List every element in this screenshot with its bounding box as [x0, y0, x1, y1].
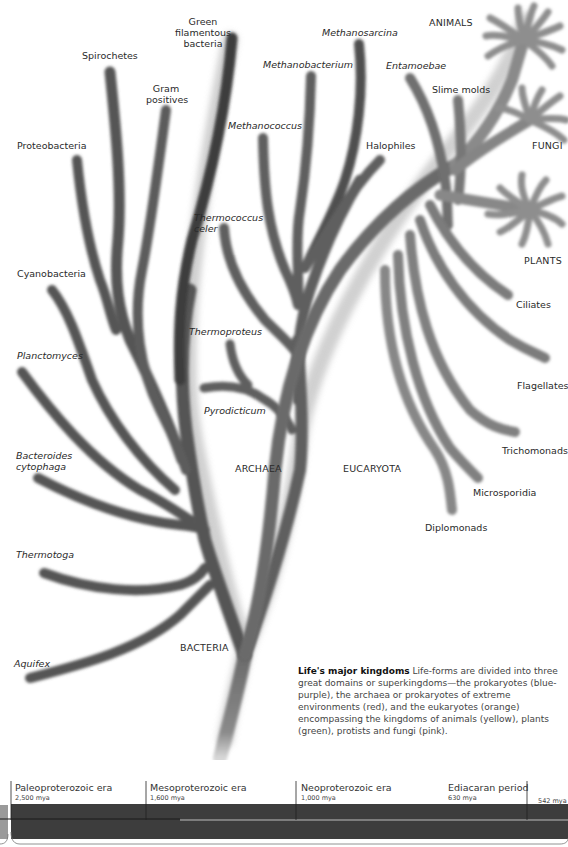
label-pyrodicticum: Pyrodicticum — [204, 405, 266, 416]
mya-1000: 1,000 mya — [301, 794, 336, 802]
label-methanococcus: Methanococcus — [228, 120, 302, 131]
label-halophiles: Halophiles — [366, 140, 416, 151]
label-thermococcus-celer: Thermococcus celer — [194, 212, 263, 234]
caption-body: Life-forms are divided into three great … — [298, 666, 558, 736]
label-diplomonads: Diplomonads — [425, 522, 487, 533]
label-microsporidia: Microsporidia — [473, 487, 536, 498]
label-domain-bacteria: BACTERIA — [180, 642, 229, 653]
label-domain-eucaryota: EUCARYOTA — [343, 463, 401, 474]
label-plants: PLANTS — [524, 255, 562, 266]
phylogenetic-tree — [0, 0, 568, 760]
mya-1600: 1,600 mya — [150, 794, 185, 802]
label-bacteroides-cytophaga: Bacteroides cytophaga — [16, 450, 72, 472]
era-mesoproterozoic: Mesoproterozoic era — [150, 782, 247, 793]
label-entamoebae: Entamoebae — [386, 60, 446, 71]
caption-title: Life's major kingdoms — [298, 666, 410, 676]
label-ciliates: Ciliates — [516, 299, 551, 310]
era-ediacaran: Ediacaran period — [448, 782, 529, 793]
label-fungi: FUNGI — [532, 140, 563, 151]
label-methanobacterium: Methanobacterium — [263, 59, 353, 70]
label-planctomyces: Planctomyces — [17, 350, 83, 361]
label-cyanobacteria: Cyanobacteria — [17, 268, 86, 279]
era-paleoproterozoic: Paleoproterozoic era — [15, 782, 112, 793]
label-proteobacteria: Proteobacteria — [17, 140, 86, 151]
label-trichomonads: Trichomonads — [502, 445, 568, 456]
label-domain-archaea: ARCHAEA — [235, 463, 282, 474]
label-thermotoga: Thermotoga — [16, 549, 74, 560]
label-green-filamentous-bacteria: Green filamentous bacteria — [160, 16, 246, 49]
label-aquifex: Aquifex — [14, 658, 50, 669]
label-methanosarcina: Methanosarcina — [322, 27, 398, 38]
timeline-band — [11, 804, 568, 839]
label-flagellates: Flagellates — [517, 380, 568, 391]
label-thermoproteus: Thermoproteus — [189, 326, 262, 337]
era-neoproterozoic: Neoproterozoic era — [301, 782, 392, 793]
label-slime-molds: Slime molds — [432, 84, 490, 95]
mya-2500: 2,500 mya — [15, 794, 50, 802]
label-animals: ANIMALS — [429, 17, 473, 28]
figure-caption: Life's major kingdoms Life-forms are div… — [298, 665, 563, 737]
mya-542: 542 mya — [538, 797, 567, 805]
label-spirochetes: Spirochetes — [82, 50, 138, 61]
label-gram-positives: Gram positives — [146, 83, 186, 105]
timeline-left-cap — [0, 805, 8, 839]
mya-630: 630 mya — [448, 794, 477, 802]
eucaryota-clade — [245, 6, 566, 655]
